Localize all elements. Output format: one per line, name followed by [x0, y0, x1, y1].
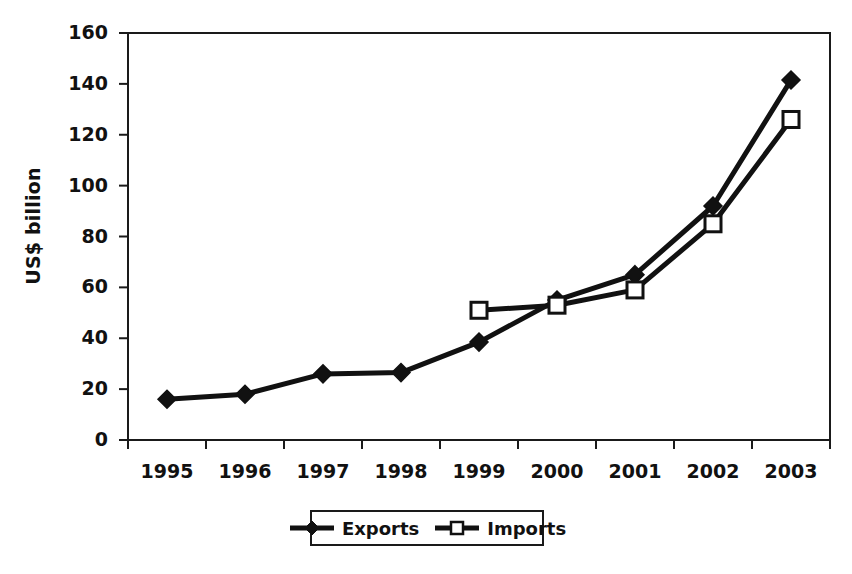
y-axis-tick-label: 40 [50, 327, 108, 347]
y-axis-tick-label: 100 [50, 175, 108, 195]
x-axis-tick-label: 2003 [749, 460, 833, 482]
chart-legend: Exports Imports [310, 510, 544, 546]
legend-marker-filled-diamond [288, 519, 336, 537]
legend-label-imports: Imports [487, 518, 566, 539]
x-axis-tick-label: 1997 [281, 460, 365, 482]
data-point-imports [471, 302, 487, 318]
legend-item-exports: Exports [288, 518, 419, 539]
y-axis-tick-label: 140 [50, 73, 108, 93]
y-axis-title: US$ billion [22, 146, 44, 306]
y-axis-tick-label: 0 [50, 429, 108, 449]
legend-label-exports: Exports [342, 518, 419, 539]
legend-item-imports: Imports [433, 518, 566, 539]
plot-area [0, 0, 852, 574]
x-axis-ticks [128, 440, 830, 449]
legend-marker-open-square [433, 519, 481, 537]
y-axis-tick-label: 160 [50, 22, 108, 42]
chart-figure: US$ billion 020406080100120140160 199519… [0, 0, 852, 574]
x-axis-tick-label: 2002 [671, 460, 755, 482]
x-axis-tick-label: 1996 [203, 460, 287, 482]
x-axis-tick-label: 2001 [593, 460, 677, 482]
plot-border [128, 33, 830, 440]
x-axis-tick-label: 1995 [125, 460, 209, 482]
y-axis-ticks [119, 33, 128, 440]
y-axis-tick-label: 120 [50, 124, 108, 144]
data-point-imports [549, 297, 565, 313]
y-axis-tick-label: 60 [50, 276, 108, 296]
x-axis-tick-label: 2000 [515, 460, 599, 482]
data-point-imports [627, 282, 643, 298]
x-axis-tick-label: 1998 [359, 460, 443, 482]
y-axis-tick-label: 80 [50, 226, 108, 246]
data-point-imports [705, 216, 721, 232]
data-point-imports [783, 111, 799, 127]
x-axis-tick-label: 1999 [437, 460, 521, 482]
y-axis-tick-label: 20 [50, 378, 108, 398]
